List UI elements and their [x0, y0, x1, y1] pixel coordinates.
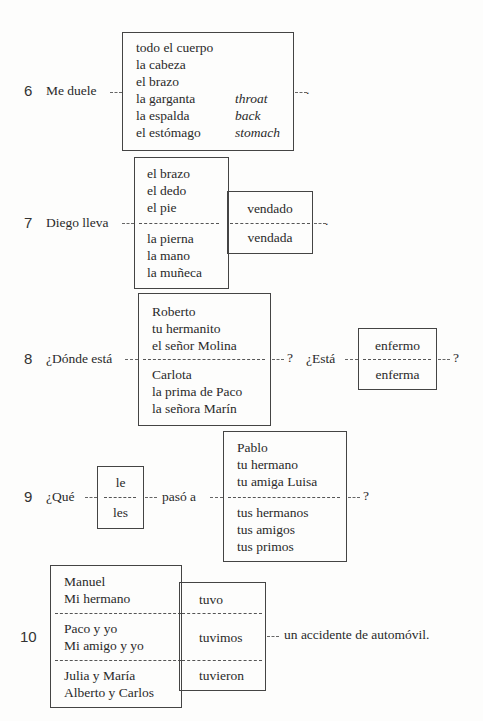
divider: [104, 497, 136, 498]
option: la muñeca: [147, 264, 202, 281]
option: la garganta: [136, 90, 195, 107]
item-number: 6: [24, 82, 32, 99]
verb-box: tuvo tuvimos tuvieron: [179, 582, 266, 691]
option: el pie: [147, 199, 177, 216]
connector: [210, 497, 223, 498]
connector: [272, 359, 284, 360]
option: Roberto: [152, 303, 196, 320]
connector: [85, 497, 97, 498]
option: les: [98, 504, 143, 521]
connector: [348, 497, 360, 498]
option: Manuel: [64, 573, 105, 590]
divider: [55, 660, 181, 661]
adjective-box: enfermo enferma: [358, 328, 437, 390]
sentence-end: un accidente de automóvil.: [284, 627, 429, 643]
sentence-prompt-2: ¿Está: [306, 351, 335, 367]
sentence-prompt: ¿Qué: [46, 489, 74, 505]
question-mark: ?: [363, 488, 369, 504]
option: Alberto y Carlos: [64, 684, 154, 701]
divider: [139, 223, 219, 224]
gloss: stomach: [235, 124, 280, 141]
option: Mi hermano: [64, 590, 130, 607]
option: vendada: [228, 229, 312, 246]
connector: [345, 359, 358, 360]
option: tu hermanito: [152, 320, 221, 337]
option: tu hermano: [237, 456, 298, 473]
question-mark: ?: [453, 350, 459, 366]
option: el dedo: [147, 182, 186, 199]
connector: [125, 359, 138, 360]
divider: [143, 359, 265, 360]
option: el brazo: [136, 73, 179, 90]
option: tuvo: [199, 591, 223, 608]
connector: [122, 223, 134, 224]
option: enfermo: [359, 337, 436, 354]
sentence-end: .: [325, 213, 328, 229]
option: Julia y María: [64, 667, 135, 684]
connector: [110, 92, 122, 93]
option: Carlota: [152, 366, 192, 383]
option: el señor Molina: [152, 337, 237, 354]
option: le: [98, 474, 143, 491]
option: Paco y yo: [64, 620, 117, 637]
option: todo el cuerpo: [136, 39, 213, 56]
option: el brazo: [147, 165, 190, 182]
option: la cabeza: [136, 56, 186, 73]
noun-box: el brazo el dedo el pie la pierna la man…: [134, 157, 229, 289]
divider: [363, 359, 431, 360]
item-number: 7: [24, 214, 32, 231]
option: tus hermanos: [237, 504, 309, 521]
substitution-box: todo el cuerpo la cabeza el brazo la gar…: [122, 32, 294, 151]
option: tuvimos: [199, 629, 243, 646]
option: la señora Marín: [152, 400, 237, 417]
sentence-prompt: Diego lleva: [46, 215, 109, 231]
sentence-prompt: ¿Dónde está: [46, 351, 112, 367]
option: Pablo: [237, 439, 268, 456]
pronoun-box: le les: [97, 466, 144, 529]
option: la pierna: [147, 230, 194, 247]
divider: [55, 613, 181, 614]
subject-box: Manuel Mi hermano Paco y yo Mi amigo y y…: [50, 565, 182, 708]
option: tu amiga Luisa: [237, 473, 317, 490]
noun-box: Pablo tu hermano tu amiga Luisa tus herm…: [223, 431, 347, 562]
question-mark: ?: [287, 350, 293, 366]
option: enferma: [359, 366, 436, 383]
connector: [438, 359, 450, 360]
connector: [145, 497, 157, 498]
option: la espalda: [136, 107, 190, 124]
sentence-prompt: Me duele: [46, 83, 97, 99]
option: vendado: [228, 200, 312, 217]
connector: [267, 636, 279, 637]
item-number: 9: [24, 488, 32, 505]
option: la prima de Paco: [152, 383, 242, 400]
adjective-box: vendado vendada: [227, 191, 313, 254]
option: el estómago: [136, 124, 201, 141]
sentence-end: .: [306, 82, 309, 98]
item-number: 10: [20, 628, 37, 645]
noun-box: Roberto tu hermanito el señor Molina Car…: [138, 293, 271, 426]
option: tuvieron: [199, 667, 244, 684]
sentence-middle: pasó a: [162, 489, 196, 505]
gloss: back: [235, 107, 260, 124]
divider: [182, 660, 262, 661]
divider: [228, 497, 340, 498]
item-number: 8: [24, 350, 32, 367]
option: la mano: [147, 247, 190, 264]
option: tus primos: [237, 538, 294, 555]
option: tus amigos: [237, 521, 295, 538]
divider: [182, 613, 262, 614]
option: Mi amigo y yo: [64, 637, 144, 654]
gloss: throat: [235, 90, 268, 107]
divider: [230, 223, 310, 224]
